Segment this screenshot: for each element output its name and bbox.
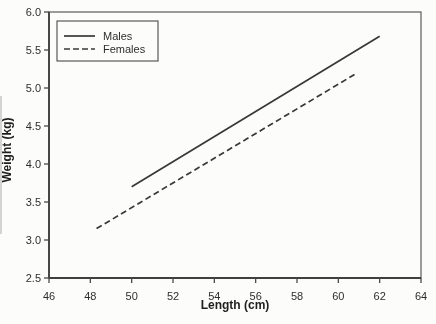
chart-figure: Length (cm) Weight (kg) 4648505254565860…	[0, 0, 436, 324]
y-tick-label: 3.0	[26, 234, 41, 246]
y-tick-label: 5.0	[26, 82, 41, 94]
y-tick-label: 6.0	[26, 6, 41, 18]
y-tick-label: 4.0	[26, 158, 41, 170]
legend-label-females: Females	[103, 43, 146, 55]
x-tick-label: 50	[126, 290, 138, 302]
series-line-males	[132, 36, 380, 186]
legend-label-males: Males	[103, 30, 133, 42]
series-line-females	[97, 74, 355, 228]
x-tick-label: 64	[415, 290, 427, 302]
x-tick-label: 54	[208, 290, 220, 302]
x-tick-label: 60	[332, 290, 344, 302]
y-tick-label: 2.5	[26, 272, 41, 284]
y-axis-title: Weight (kg)	[0, 117, 14, 182]
y-tick-label: 3.5	[26, 196, 41, 208]
y-tick-label: 5.5	[26, 44, 41, 56]
x-tick-label: 62	[374, 290, 386, 302]
x-tick-label: 48	[84, 290, 96, 302]
x-tick-label: 52	[167, 290, 179, 302]
x-tick-label: 58	[291, 290, 303, 302]
chart-canvas: Length (cm) Weight (kg) 4648505254565860…	[0, 0, 436, 324]
x-tick-label: 56	[250, 290, 262, 302]
y-tick-label: 4.5	[26, 120, 41, 132]
x-tick-label: 46	[43, 290, 55, 302]
